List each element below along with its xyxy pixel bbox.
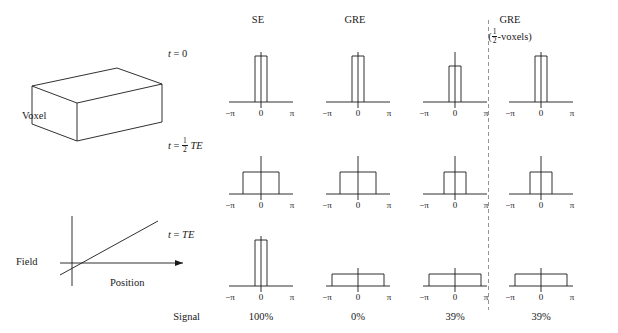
axis-tick-left-gre-tte: −π <box>316 292 338 302</box>
row-label-t0-text: = 0 <box>171 48 187 59</box>
axis-tick-left-greh-b-t0: −π <box>499 108 521 118</box>
column-title-se: SE <box>228 14 288 25</box>
axis-tick-right-greh-b-thalf: π <box>561 200 583 210</box>
signal-value-gre-half-b: 39% <box>511 311 571 322</box>
axis-tick-center-greh-a-tte: 0 <box>444 292 466 302</box>
axis-tick-center-gre-thalf: 0 <box>347 200 369 210</box>
axis-tick-right-greh-a-tte: π <box>475 292 497 302</box>
axis-tick-right-greh-a-thalf: π <box>475 200 497 210</box>
plot-se-t0 <box>225 48 297 110</box>
axis-tick-left-gre-thalf: −π <box>316 200 338 210</box>
axis-tick-center-greh-b-t0: 0 <box>530 108 552 118</box>
signal-label-text: Signal <box>173 311 200 322</box>
column-title-se-text: SE <box>252 14 264 25</box>
half-voxels-subtitle: (12-voxels) <box>488 31 532 42</box>
axis-tick-center-greh-a-thalf: 0 <box>444 200 466 210</box>
row-label-thalf-te: TE <box>191 140 203 151</box>
column-title-gre-text: GRE <box>345 14 366 25</box>
axis-tick-center-se-t0: 0 <box>250 108 272 118</box>
fraction-one-half: 12 <box>492 28 498 45</box>
axis-tick-right-greh-b-tte: π <box>561 292 583 302</box>
axis-tick-right-gre-tte: π <box>378 292 400 302</box>
voxel-label: Voxel <box>22 110 46 121</box>
signal-value-se-text: 100% <box>249 311 274 322</box>
voxel-box-diagram <box>22 52 172 147</box>
axis-tick-right-gre-thalf: π <box>378 200 400 210</box>
field-label-text: Field <box>16 256 38 267</box>
plot-gre-tte <box>322 232 394 294</box>
plot-gre-half-b-thalf <box>505 140 577 202</box>
position-label-text: Position <box>110 277 144 288</box>
signal-value-gre: 0% <box>328 311 388 322</box>
axis-tick-center-gre-t0: 0 <box>347 108 369 118</box>
column-title-gre-half: GRE <box>455 14 565 25</box>
axis-tick-left-greh-a-tte: −π <box>413 292 435 302</box>
axis-tick-left-greh-b-tte: −π <box>499 292 521 302</box>
axis-tick-left-greh-a-thalf: −π <box>413 200 435 210</box>
signal-row-label: Signal <box>140 311 200 322</box>
voxel-label-text: Voxel <box>22 110 46 121</box>
axis-tick-center-greh-a-t0: 0 <box>444 108 466 118</box>
column-subtitle-gre-half: (12-voxels) <box>455 28 565 45</box>
axis-tick-center-gre-tte: 0 <box>347 292 369 302</box>
axis-tick-center-greh-b-thalf: 0 <box>530 200 552 210</box>
signal-value-se: 100% <box>231 311 291 322</box>
plot-se-thalf <box>225 140 297 202</box>
plot-gre-thalf <box>322 140 394 202</box>
row-label-t-half-te: t = 12 TE <box>168 137 203 154</box>
plot-gre-half-b-t0 <box>505 48 577 110</box>
axis-tick-right-se-thalf: π <box>281 200 303 210</box>
axis-tick-center-se-thalf: 0 <box>250 200 272 210</box>
axis-tick-left-greh-a-t0: −π <box>413 108 435 118</box>
axis-tick-right-greh-b-t0: π <box>561 108 583 118</box>
axis-tick-left-greh-b-thalf: −π <box>499 200 521 210</box>
signal-value-gre-half-b-text: 39% <box>531 311 550 322</box>
plot-gre-half-a-tte <box>419 232 491 294</box>
axis-tick-center-se-tte: 0 <box>250 292 272 302</box>
plot-gre-half-b-tte <box>505 232 577 294</box>
fraction-one-half-te: 12 <box>182 137 188 154</box>
axis-tick-center-greh-b-tte: 0 <box>530 292 552 302</box>
column-title-gre-half-text: GRE <box>500 14 521 25</box>
signal-value-gre-half-a-text: 39% <box>445 311 464 322</box>
position-label: Position <box>110 277 144 288</box>
axis-tick-left-se-t0: −π <box>219 108 241 118</box>
signal-value-gre-text: 0% <box>351 311 365 322</box>
signal-value-gre-half-a: 39% <box>425 311 485 322</box>
plot-gre-half-a-thalf <box>419 140 491 202</box>
column-title-gre: GRE <box>325 14 385 25</box>
plot-gre-t0 <box>322 48 394 110</box>
axis-tick-left-gre-t0: −π <box>316 108 338 118</box>
plot-se-tte <box>225 232 297 294</box>
axis-tick-left-se-tte: −π <box>219 292 241 302</box>
plot-gre-half-a-t0 <box>419 48 491 110</box>
axis-tick-left-se-thalf: −π <box>219 200 241 210</box>
field-label: Field <box>16 256 38 267</box>
axis-tick-right-se-t0: π <box>281 108 303 118</box>
axis-tick-right-greh-a-t0: π <box>475 108 497 118</box>
axis-tick-right-se-tte: π <box>281 292 303 302</box>
axis-tick-right-gre-t0: π <box>378 108 400 118</box>
